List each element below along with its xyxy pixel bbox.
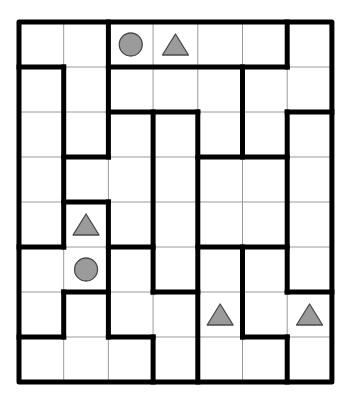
- grid-cell[interactable]: [243, 157, 288, 202]
- grid-cell[interactable]: [198, 337, 243, 382]
- grid-cell[interactable]: [153, 67, 198, 112]
- grid-cell[interactable]: [19, 202, 64, 247]
- grid-cell[interactable]: [153, 337, 198, 382]
- grid-cell[interactable]: [243, 22, 288, 67]
- grid-cell[interactable]: [153, 112, 198, 157]
- grid-cell[interactable]: [19, 22, 64, 67]
- grid-cell[interactable]: [19, 112, 64, 157]
- grid-cell[interactable]: [153, 292, 198, 337]
- puzzle-board: [0, 0, 351, 402]
- grid-cell[interactable]: [153, 157, 198, 202]
- grid-cell[interactable]: [287, 22, 332, 67]
- grid-cell[interactable]: [198, 202, 243, 247]
- grid-cell[interactable]: [287, 67, 332, 112]
- grid-cell[interactable]: [243, 247, 288, 292]
- grid-cell[interactable]: [153, 202, 198, 247]
- grid-cell[interactable]: [64, 112, 109, 157]
- grid-cell[interactable]: [19, 337, 64, 382]
- grid-cell[interactable]: [287, 247, 332, 292]
- grid-cell[interactable]: [287, 157, 332, 202]
- grid-cell[interactable]: [198, 247, 243, 292]
- grid-cell[interactable]: [108, 292, 153, 337]
- grid-cell[interactable]: [287, 112, 332, 157]
- grid-cell[interactable]: [64, 67, 109, 112]
- grid-cell[interactable]: [198, 157, 243, 202]
- grid-cell[interactable]: [287, 337, 332, 382]
- grid-cell[interactable]: [64, 337, 109, 382]
- grid-cell[interactable]: [153, 247, 198, 292]
- grid-cell[interactable]: [64, 22, 109, 67]
- grid-cell[interactable]: [19, 247, 64, 292]
- grid-cell[interactable]: [243, 292, 288, 337]
- grid-cell[interactable]: [108, 67, 153, 112]
- grid-cell[interactable]: [108, 337, 153, 382]
- grid-cell[interactable]: [108, 247, 153, 292]
- grid-cell[interactable]: [198, 22, 243, 67]
- grid-cell[interactable]: [19, 157, 64, 202]
- circle-icon: [119, 33, 142, 56]
- grid-cell[interactable]: [108, 157, 153, 202]
- grid-cell[interactable]: [243, 337, 288, 382]
- grid-cell[interactable]: [108, 112, 153, 157]
- grid-cell[interactable]: [243, 112, 288, 157]
- grid-cell[interactable]: [287, 202, 332, 247]
- grid-cell[interactable]: [19, 67, 64, 112]
- grid-cell[interactable]: [108, 202, 153, 247]
- grid-cell[interactable]: [64, 157, 109, 202]
- grid-cell[interactable]: [19, 292, 64, 337]
- grid-cell[interactable]: [198, 112, 243, 157]
- circle-icon: [75, 258, 98, 281]
- grid-cell[interactable]: [243, 202, 288, 247]
- grid-cell[interactable]: [243, 67, 288, 112]
- grid-cell[interactable]: [198, 67, 243, 112]
- grid-cell[interactable]: [64, 292, 109, 337]
